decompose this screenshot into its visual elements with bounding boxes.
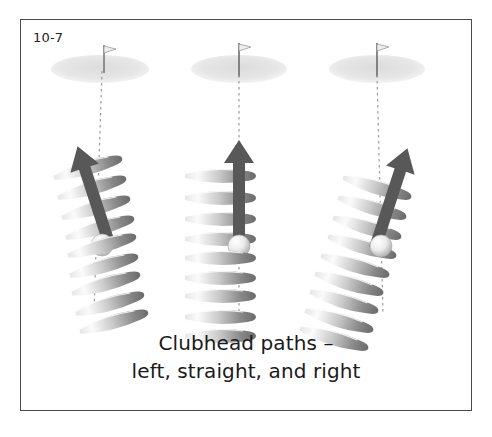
green-ellipse — [51, 55, 149, 83]
caption-line-1: Clubhead paths – — [22, 330, 470, 358]
golf-ball — [370, 235, 392, 257]
caption-line-2: left, straight, and right — [22, 358, 470, 386]
panel-path-left — [32, 21, 182, 321]
panel-path-straight — [177, 21, 327, 321]
clubhead-group-upper — [185, 169, 256, 246]
figure-root: 10-7 — [0, 0, 492, 437]
clubhead-path-panels — [22, 21, 470, 321]
figure-caption: Clubhead paths – left, straight, and rig… — [22, 330, 470, 385]
panel-path-right — [317, 21, 467, 321]
